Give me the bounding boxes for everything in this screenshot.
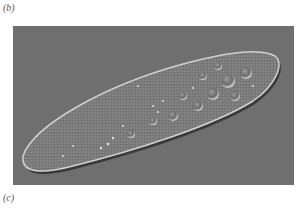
panel-label-b: (b) — [3, 2, 15, 13]
micrograph-photo — [13, 26, 294, 185]
paramecium-cell-illustration — [13, 26, 294, 185]
panel-label-c: (c) — [3, 192, 14, 203]
